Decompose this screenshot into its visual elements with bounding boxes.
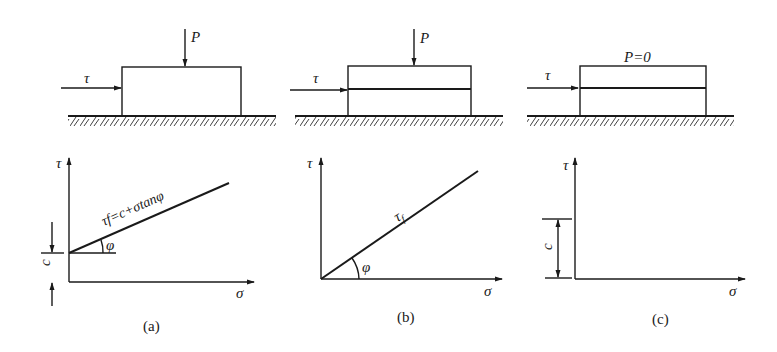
caption-a: (a) [143,318,160,335]
load-label: P [190,29,200,45]
ground-hatch [68,117,276,126]
tau-axis-label: τ [563,157,569,173]
envelope-label: τf [391,206,408,226]
specimen-a: P τ [61,29,276,126]
tau-axis-label: τ [56,155,62,171]
panel-a: P τ τ σ φ τf=c+σtanφ c (a) [37,29,276,335]
shear-label: τ [545,67,551,83]
ground-hatch [295,117,503,126]
phi-arc [101,240,103,253]
c-label: c [539,243,555,250]
phi-label: φ [362,259,370,275]
panel-c: P=0 τ τ σ c (c) [527,49,745,328]
sigma-axis-label: σ [236,285,244,301]
load-label: P [419,30,429,46]
shear-strength-diagram: P τ τ σ φ τf=c+σtanφ c (a) [0,0,777,352]
ground-hatch [527,117,734,126]
strength-envelope [321,171,478,279]
caption-c: (c) [652,311,669,328]
sigma-axis-label: σ [729,283,737,299]
load-label: P=0 [623,49,651,65]
sigma-axis-label: σ [484,283,492,299]
phi-arc [352,258,359,279]
tau-axis-label: τ [307,155,313,171]
specimen-c: P=0 τ [527,49,734,126]
envelope-equation: τf=c+σtanφ [99,188,166,229]
specimen-b: P τ [290,29,503,126]
plot-a: τ σ φ τf=c+σtanφ c [37,155,254,306]
shear-label: τ [84,70,90,86]
plot-c: τ σ c [539,157,745,299]
phi-label: φ [106,237,114,253]
panel-b: P τ τ σ φ τf (b) [290,29,503,326]
caption-b: (b) [397,309,415,326]
plot-b: τ σ φ τf [307,155,502,299]
c-label: c [37,259,53,266]
shear-label: τ [313,70,319,86]
